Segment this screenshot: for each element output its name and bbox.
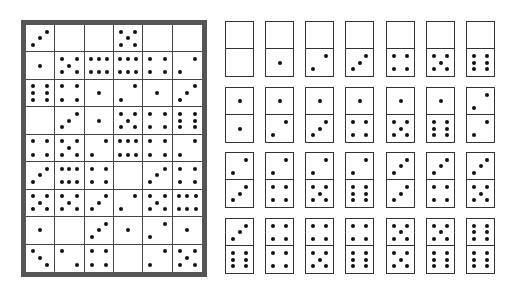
pip-dot	[185, 228, 189, 232]
domino-tile[interactable]	[466, 152, 495, 208]
board-cell[interactable]	[143, 25, 172, 52]
board-cell[interactable]	[173, 52, 202, 79]
domino-tile[interactable]	[386, 218, 415, 274]
board-cell[interactable]	[55, 190, 84, 217]
board-cell[interactable]	[114, 162, 143, 189]
board-cell[interactable]	[26, 135, 55, 162]
domino-tile[interactable]	[265, 152, 294, 208]
board-cell[interactable]	[143, 162, 172, 189]
pip-dot	[392, 171, 396, 175]
pip-dot	[90, 207, 94, 211]
board-cell[interactable]	[26, 217, 55, 244]
domino-tile[interactable]	[426, 21, 455, 77]
domino-tile[interactable]	[426, 152, 455, 208]
domino-tile[interactable]	[265, 21, 294, 77]
pip-dot	[178, 112, 182, 116]
domino-tile[interactable]	[466, 87, 495, 143]
board-cell[interactable]	[143, 245, 172, 272]
pip-dot	[472, 224, 476, 228]
board-cell[interactable]	[55, 80, 84, 107]
domino-tile[interactable]	[305, 87, 334, 143]
board-cell[interactable]	[114, 217, 143, 244]
board-cell[interactable]	[114, 135, 143, 162]
board-cell[interactable]	[85, 217, 114, 244]
board-cell[interactable]	[26, 25, 55, 52]
domino-tile[interactable]	[225, 87, 254, 143]
board-cell[interactable]	[55, 135, 84, 162]
board-cell[interactable]	[26, 80, 55, 107]
board-cell[interactable]	[114, 52, 143, 79]
board-cell[interactable]	[85, 190, 114, 217]
pip-dot	[445, 185, 449, 189]
board-cell[interactable]	[143, 52, 172, 79]
board-cell[interactable]	[55, 162, 84, 189]
board-cell[interactable]	[26, 52, 55, 79]
pip-dot	[163, 125, 167, 129]
board-cell[interactable]	[114, 245, 143, 272]
board-cell[interactable]	[173, 217, 202, 244]
board-cell[interactable]	[85, 25, 114, 52]
board-cell[interactable]	[85, 107, 114, 134]
board-cell[interactable]	[85, 245, 114, 272]
pip-dot	[118, 57, 122, 61]
board-cell[interactable]	[143, 190, 172, 217]
domino-tile[interactable]	[305, 152, 334, 208]
board-cell[interactable]	[173, 245, 202, 272]
board-cell[interactable]	[85, 52, 114, 79]
pip-dot	[75, 153, 79, 157]
board-cell[interactable]	[173, 135, 202, 162]
board-cell[interactable]	[85, 135, 114, 162]
domino-tile[interactable]	[225, 152, 254, 208]
domino-tile[interactable]	[345, 152, 374, 208]
pip-dot	[405, 158, 409, 162]
board-cell[interactable]	[55, 107, 84, 134]
board-cell[interactable]	[143, 217, 172, 244]
board-cell[interactable]	[55, 25, 84, 52]
board-cell[interactable]	[173, 190, 202, 217]
pip-dot	[31, 249, 35, 253]
board-cell[interactable]	[143, 135, 172, 162]
board-cell[interactable]	[26, 107, 55, 134]
board-cell[interactable]	[173, 162, 202, 189]
board-cell[interactable]	[114, 25, 143, 52]
board-cell[interactable]	[173, 107, 202, 134]
domino-tile[interactable]	[225, 218, 254, 274]
board-cell[interactable]	[85, 162, 114, 189]
board-cell[interactable]	[143, 80, 172, 107]
pip-dot	[38, 36, 42, 40]
board-cell[interactable]	[55, 217, 84, 244]
pip-dot	[318, 192, 322, 196]
board-cell[interactable]	[143, 107, 172, 134]
board-cell[interactable]	[114, 107, 143, 134]
domino-tile[interactable]	[426, 87, 455, 143]
domino-tile[interactable]	[426, 218, 455, 274]
board-cell[interactable]	[26, 162, 55, 189]
board-cell[interactable]	[173, 80, 202, 107]
board-cell[interactable]	[55, 52, 84, 79]
board-cell[interactable]	[85, 80, 114, 107]
domino-tile[interactable]	[265, 218, 294, 274]
board-cell[interactable]	[26, 245, 55, 272]
board-cell[interactable]	[26, 190, 55, 217]
domino-tile[interactable]	[386, 87, 415, 143]
pip-dot	[104, 194, 108, 198]
domino-tile[interactable]	[466, 21, 495, 77]
domino-tile[interactable]	[386, 21, 415, 77]
domino-tile[interactable]	[345, 21, 374, 77]
domino-half-top	[346, 22, 373, 49]
pip-dot	[75, 180, 79, 184]
domino-tile[interactable]	[305, 21, 334, 77]
domino-tile[interactable]	[386, 152, 415, 208]
domino-tile[interactable]	[466, 218, 495, 274]
board-cell[interactable]	[173, 25, 202, 52]
domino-tile[interactable]	[305, 218, 334, 274]
board-cell[interactable]	[114, 190, 143, 217]
domino-tile[interactable]	[345, 87, 374, 143]
board-cell[interactable]	[55, 245, 84, 272]
domino-tile[interactable]	[345, 218, 374, 274]
pip-dot	[472, 198, 476, 202]
pip-dot	[60, 98, 64, 102]
domino-tile[interactable]	[265, 87, 294, 143]
domino-tile[interactable]	[225, 21, 254, 77]
board-cell[interactable]	[114, 80, 143, 107]
